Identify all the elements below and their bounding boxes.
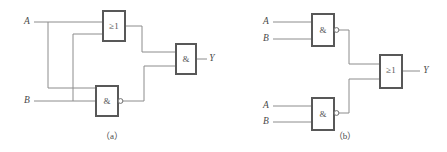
nand-gate-top-label: & [319,25,326,35]
or-gate-1-label: ≥1 [109,21,118,31]
wire-nand-out-to-and [123,66,176,101]
nand-gate-1-label: & [103,96,110,106]
wire-or-out-to-and [125,26,176,52]
logic-circuit-figure: ≥1 & & A B Y （a） [0,0,447,152]
input-label-a-bottom-circuit-b: A [262,100,269,110]
wire-nand-bottom-to-or [339,79,380,113]
input-label-b-circuit-a: B [24,95,30,105]
nand-gate-1-inversion-bubble [118,99,123,104]
input-label-b-top-circuit-b: B [263,33,269,43]
or-gate-output-label: ≥1 [386,65,395,75]
caption-b: （b） [334,131,357,141]
wire-a-branch-to-nand [48,22,96,88]
nand-gate-bottom-label: & [319,109,326,119]
nand-gate-top-inversion-bubble [334,28,339,33]
circuit-diagram-svg: ≥1 & & A B Y （a） [0,0,447,152]
caption-a: （a） [101,131,123,141]
input-label-a-top-circuit-b: A [262,16,269,26]
output-label-y-circuit-b: Y [423,65,430,75]
wire-nand-top-to-or [339,30,380,64]
output-label-y-circuit-a: Y [209,53,216,63]
circuit-b-group: & & ≥1 A B A B Y （b） [262,14,430,141]
input-label-b-bottom-circuit-b: B [263,116,269,126]
and-gate-1-label: & [182,54,189,64]
input-label-a-circuit-a: A [23,16,30,26]
circuit-a-group: ≥1 & & A B Y （a） [23,11,216,141]
nand-gate-bottom-inversion-bubble [334,111,339,116]
